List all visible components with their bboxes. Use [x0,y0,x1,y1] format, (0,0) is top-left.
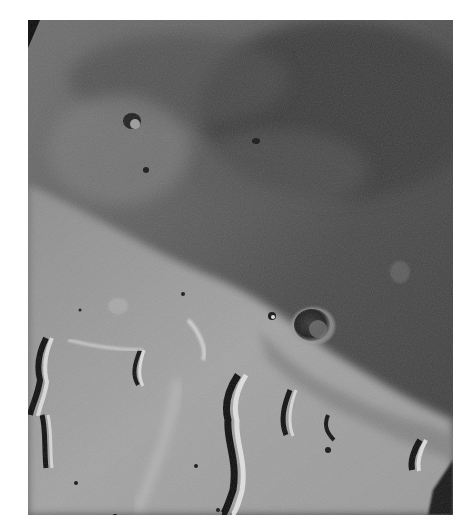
terrain-illustration [28,20,453,515]
terrain-photograph [28,20,453,515]
film-grain [28,20,453,515]
